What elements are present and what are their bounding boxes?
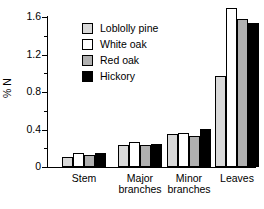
legend-swatch-icon	[82, 55, 93, 66]
bar	[140, 145, 151, 167]
y-tick-label: 1.6	[9, 11, 41, 22]
bar	[226, 8, 237, 167]
bar	[215, 76, 226, 167]
bar	[178, 133, 189, 167]
bar	[200, 129, 211, 167]
y-axis-tick-labels: 00.40.81.21.6	[0, 0, 41, 209]
x-group-label: Leaves	[197, 173, 264, 184]
bar	[167, 134, 178, 167]
legend-item: Red oak	[82, 52, 158, 68]
bar	[129, 142, 140, 167]
y-tick-label: 0.4	[9, 124, 41, 135]
bar	[189, 136, 200, 167]
bar	[151, 144, 162, 167]
legend-item: Hickory	[82, 68, 158, 84]
bar	[95, 153, 106, 167]
legend-item-label: Hickory	[100, 71, 135, 82]
bar-chart-figure: % N 00.40.81.21.6 StemMajor branchesMino…	[0, 0, 264, 209]
legend-item-label: White oak	[100, 39, 147, 50]
y-tick-label: 1.2	[9, 49, 41, 60]
legend-swatch-icon	[82, 23, 93, 34]
y-tick-label: 0	[9, 161, 41, 172]
legend: Loblolly pineWhite oakRed oakHickory	[82, 20, 158, 84]
bar-group	[167, 17, 211, 167]
legend-item-label: Red oak	[100, 55, 139, 66]
legend-item-label: Loblolly pine	[100, 23, 158, 34]
legend-swatch-icon	[82, 71, 93, 82]
y-tick-label: 0.8	[9, 86, 41, 97]
bar	[237, 19, 248, 167]
bar	[118, 145, 129, 167]
bar	[248, 23, 259, 167]
bar-group	[215, 17, 259, 167]
legend-item: Loblolly pine	[82, 20, 158, 36]
legend-item: White oak	[82, 36, 158, 52]
bar	[73, 153, 84, 167]
x-axis-line	[47, 167, 256, 168]
bar	[84, 155, 95, 167]
legend-swatch-icon	[82, 39, 93, 50]
bar	[62, 157, 73, 167]
